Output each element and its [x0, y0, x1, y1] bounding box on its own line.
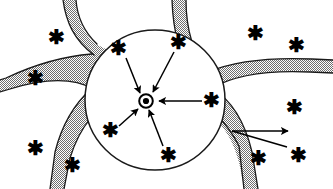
ast-outer-right-upper-marker: ✱ [288, 34, 305, 56]
diagram-canvas: ✱✱✱✱✱✱✱✱✱✱✱✱✱✱ [0, 0, 333, 189]
ast-inner-lower-left-marker: ✱ [102, 119, 119, 141]
ast-inner-right-marker: ✱ [203, 89, 220, 111]
ast-outer-bottom-left2-marker: ✱ [64, 154, 81, 176]
ast-outer-left-marker: ✱ [27, 67, 44, 89]
ast-outer-top-right-marker: ✱ [247, 22, 264, 44]
nucleus-core-dot [143, 98, 149, 104]
ast-outer-right-mid-marker: ✱ [286, 96, 303, 118]
ast-inner-lower-marker: ✱ [160, 144, 177, 166]
ast-outer-far-bottom-right-marker: ✱ [290, 144, 307, 166]
ast-outer-bottom-left-marker: ✱ [27, 137, 44, 159]
figure-container: ✱✱✱✱✱✱✱✱✱✱✱✱✱✱ [0, 0, 333, 189]
ast-outer-top-left-marker: ✱ [48, 26, 65, 48]
ast-inner-upper-right-marker: ✱ [170, 31, 187, 53]
ast-outer-bottom-right-marker: ✱ [250, 147, 267, 169]
ast-inner-upper-left-marker: ✱ [110, 37, 127, 59]
central-nucleus [139, 94, 153, 108]
